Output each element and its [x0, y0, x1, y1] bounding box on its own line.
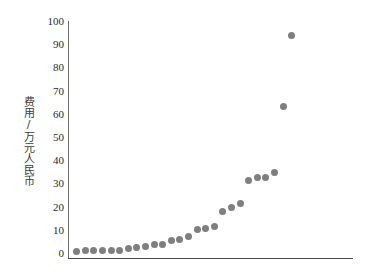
data-point — [176, 236, 183, 243]
y-tick-label: 70 — [34, 85, 64, 97]
data-point — [237, 200, 244, 207]
data-point — [99, 247, 106, 254]
y-axis-tick-labels: 0102030405060708090100 — [30, 0, 64, 279]
data-point — [133, 244, 140, 251]
data-point — [108, 247, 115, 254]
data-point — [82, 247, 89, 254]
data-point — [288, 32, 295, 39]
data-point — [219, 208, 226, 215]
y-tick-label: 20 — [34, 201, 64, 213]
data-point — [90, 247, 97, 254]
y-tick-label: 30 — [34, 177, 64, 189]
data-point — [168, 237, 175, 244]
y-tick-label: 80 — [34, 61, 64, 73]
data-point — [125, 245, 132, 252]
data-point — [151, 241, 158, 248]
data-point — [262, 174, 269, 181]
data-point — [202, 225, 209, 232]
data-point — [73, 248, 80, 255]
data-point — [142, 243, 149, 250]
y-tick-label: 60 — [34, 108, 64, 120]
data-point — [185, 233, 192, 240]
data-point — [211, 223, 218, 230]
y-tick-label: 0 — [34, 247, 64, 259]
data-point — [228, 204, 235, 211]
cost-scatter-chart: 费用/万元人民币 0102030405060708090100 — [0, 0, 366, 279]
data-point — [245, 177, 252, 184]
y-tick-label: 50 — [34, 131, 64, 143]
data-point — [254, 174, 261, 181]
data-point — [116, 247, 123, 254]
plot-area — [68, 21, 352, 259]
y-tick-label: 100 — [34, 15, 64, 27]
y-tick-label: 90 — [34, 38, 64, 50]
data-point — [280, 103, 287, 110]
y-tick-label: 40 — [34, 154, 64, 166]
y-tick-label: 10 — [34, 224, 64, 236]
data-point — [194, 226, 201, 233]
data-point — [159, 241, 166, 248]
data-point — [271, 169, 278, 176]
